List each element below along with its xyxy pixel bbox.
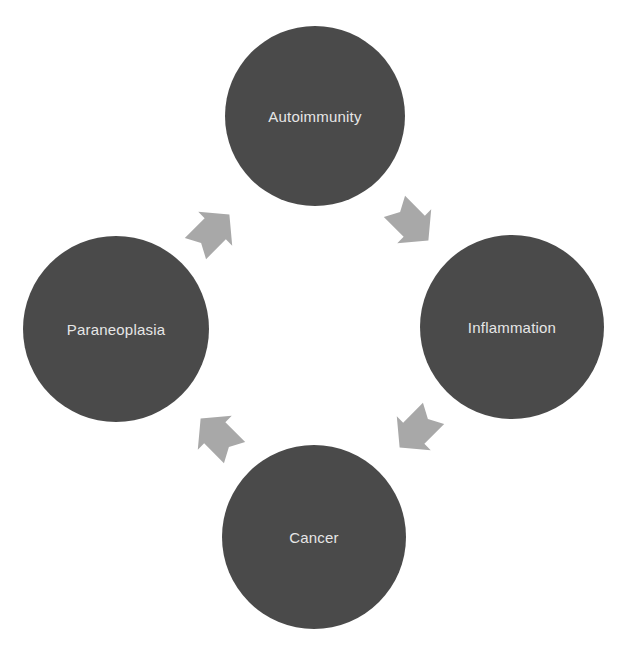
node-cancer: Cancer xyxy=(222,445,406,629)
node-paraneoplasia: Paraneoplasia xyxy=(23,236,209,422)
node-label: Paraneoplasia xyxy=(67,321,166,338)
node-label: Autoimmunity xyxy=(268,108,361,125)
arrow-paraneoplasia-to-autoimmunity-icon xyxy=(178,198,246,266)
node-label: Cancer xyxy=(289,529,339,546)
node-inflammation: Inflammation xyxy=(420,235,604,419)
arrow-autoimmunity-to-inflammation-icon xyxy=(377,189,445,257)
node-label: Inflammation xyxy=(468,319,556,336)
clipped-caption xyxy=(0,650,633,656)
node-autoimmunity: Autoimmunity xyxy=(225,26,405,206)
arrow-cancer-to-paraneoplasia-icon xyxy=(184,402,252,470)
arrow-inflammation-to-cancer-icon xyxy=(383,396,451,464)
